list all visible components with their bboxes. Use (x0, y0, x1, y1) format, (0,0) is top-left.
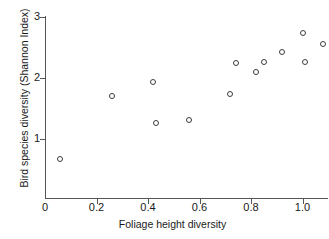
x-tick-label: 0.4 (128, 201, 168, 213)
data-point (253, 69, 259, 75)
scatter-plot-figure: Bird species diversity (Shannon Index) F… (0, 0, 329, 239)
y-tick-label-text: 1 (26, 133, 40, 144)
x-tick-label: 0.6 (180, 201, 220, 213)
data-point (261, 59, 267, 65)
y-tick-label-text: 3 (26, 11, 40, 22)
x-tick-label: 0.2 (77, 201, 117, 213)
plot-area: 12300.20.40.60.81.0 (0, 0, 329, 239)
data-point (300, 30, 306, 36)
x-tick-label: 1.0 (283, 201, 323, 213)
data-point (227, 91, 233, 97)
data-point (150, 79, 156, 85)
data-point (186, 117, 192, 123)
y-tick-label: 3 (24, 11, 40, 22)
data-point (109, 93, 115, 99)
data-point (153, 120, 159, 126)
data-point (57, 156, 63, 162)
y-tick-label: 2 (24, 72, 40, 83)
y-tick-label: 1 (24, 133, 40, 144)
y-tick-mark (40, 139, 45, 140)
x-tick-label: 0 (25, 201, 65, 213)
y-tick-mark (40, 78, 45, 79)
y-tick-mark (40, 17, 45, 18)
data-point (233, 60, 239, 66)
y-tick-label-text: 2 (26, 72, 40, 83)
data-point (320, 41, 326, 47)
data-point (279, 49, 285, 55)
data-point (302, 59, 308, 65)
x-tick-label: 0.8 (231, 201, 271, 213)
